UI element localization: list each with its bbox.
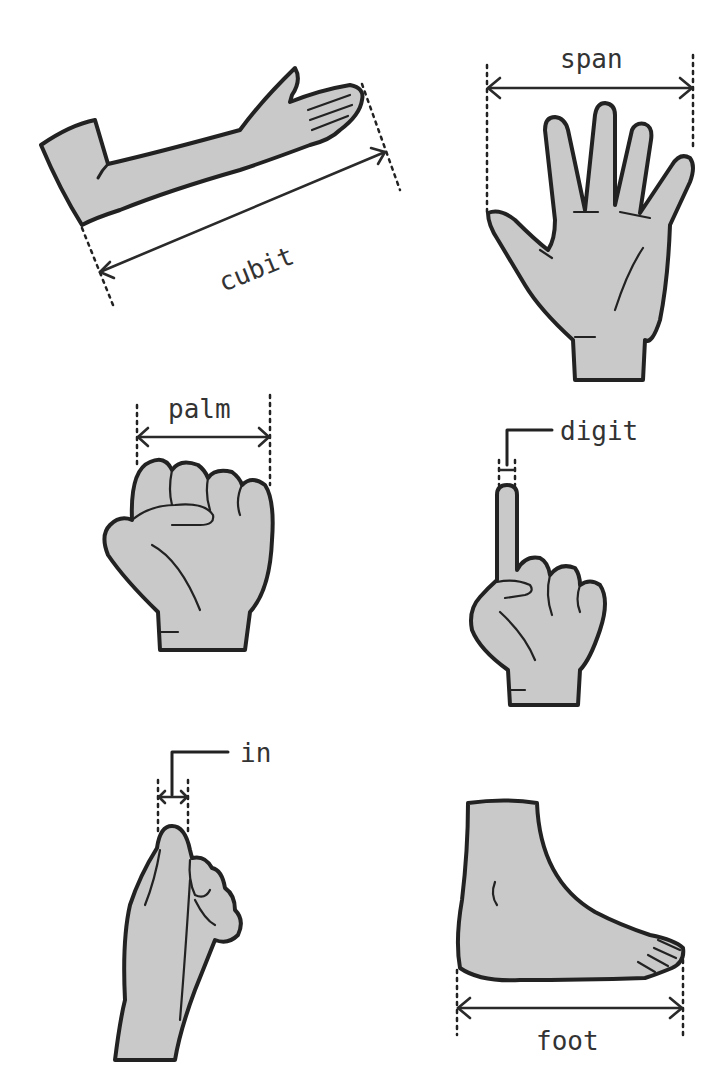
open-hand-illustration — [488, 103, 693, 380]
palm-label: palm — [168, 394, 231, 424]
inch-leader-line — [172, 752, 228, 795]
units-diagram: cubit span palm — [0, 0, 725, 1065]
foot-illustration — [458, 801, 683, 981]
digit-panel: digit — [471, 416, 638, 705]
span-arrow — [488, 78, 692, 98]
cubit-right-guide — [362, 84, 400, 190]
foot-label: foot — [536, 1026, 599, 1056]
cubit-left-guide — [82, 228, 113, 305]
pointing-finger-illustration — [471, 485, 605, 705]
inch-panel: in — [115, 738, 271, 1060]
span-panel: span — [487, 44, 693, 380]
palm-panel: palm — [104, 394, 272, 650]
inch-label: in — [240, 738, 271, 768]
span-label: span — [560, 44, 623, 74]
foot-panel: foot — [457, 801, 683, 1057]
fist-illustration — [104, 460, 272, 650]
foot-arrow — [458, 998, 682, 1018]
cubit-label: cubit — [214, 240, 298, 297]
palm-arrow — [138, 428, 269, 446]
digit-leader-line — [507, 430, 552, 465]
cubit-panel: cubit — [41, 68, 400, 305]
thumb-hand-illustration — [115, 826, 241, 1060]
digit-label: digit — [560, 416, 638, 446]
forearm-illustration — [41, 68, 363, 225]
